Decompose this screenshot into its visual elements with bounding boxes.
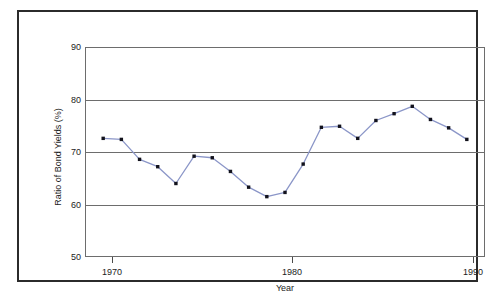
y-axis-tick-labels: 90 80 70 60 50 Ratio of Bond Yields (%) [37, 47, 81, 257]
data-point [229, 170, 232, 173]
data-point [101, 137, 104, 140]
x-tick-label-1970: 1970 [87, 267, 137, 277]
series-markers [101, 105, 468, 199]
x-tick-1970 [112, 257, 113, 263]
data-point [247, 185, 250, 188]
x-axis-title: Year [85, 283, 485, 291]
data-point [138, 158, 141, 161]
plot-area: 1970 1980 1990 Year [85, 47, 485, 257]
data-point [211, 156, 214, 159]
x-tick-1990 [473, 257, 474, 263]
y-tick-label-90: 90 [41, 42, 81, 52]
data-point [338, 125, 341, 128]
x-tick-label-1980: 1980 [267, 267, 317, 277]
y-axis-title: Ratio of Bond Yields (%) [53, 67, 63, 247]
data-point [265, 195, 268, 198]
data-point [174, 182, 177, 185]
data-point [301, 162, 304, 165]
y-tick-label-50: 50 [41, 252, 81, 262]
data-point [429, 118, 432, 121]
data-point [192, 155, 195, 158]
x-tick-label-1990: 1990 [448, 267, 498, 277]
data-series-line [85, 47, 485, 257]
data-point [120, 138, 123, 141]
figure: 90 80 70 60 50 Ratio of Bond Yields (%) … [0, 0, 498, 291]
series-polyline [103, 106, 467, 196]
data-point [320, 126, 323, 129]
data-point [356, 137, 359, 140]
data-point [156, 165, 159, 168]
data-point [374, 119, 377, 122]
figure-border: 90 80 70 60 50 Ratio of Bond Yields (%) … [17, 10, 478, 282]
data-point [411, 105, 414, 108]
data-point [447, 126, 450, 129]
data-point [465, 138, 468, 141]
x-tick-1980 [292, 257, 293, 263]
data-point [392, 112, 395, 115]
data-point [283, 191, 286, 194]
